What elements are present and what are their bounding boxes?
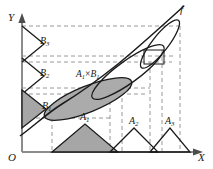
fuzzy-set-b3-label-sub: 3 bbox=[46, 40, 49, 47]
fuzzy-set-b2-label: B2 bbox=[40, 68, 50, 78]
patch-label-left: A bbox=[76, 69, 82, 79]
patch-label-left-sub: 1 bbox=[82, 73, 85, 80]
fuzzy-patch-a1b1-label: A1×B1 bbox=[76, 70, 99, 80]
fuzzy-set-a3-label-sub: 3 bbox=[171, 120, 174, 127]
y-axis-label: Y bbox=[8, 12, 14, 23]
fuzzy-set-a1-shape bbox=[52, 124, 118, 152]
fuzzy-set-a3-shape bbox=[150, 128, 190, 152]
fuzzy-set-b3-label: B3 bbox=[40, 36, 50, 46]
patch-label-right-sub: 1 bbox=[96, 73, 99, 80]
fuzzy-set-a3-label: A3 bbox=[165, 116, 175, 126]
fuzzy-set-a2-shape bbox=[110, 128, 158, 152]
fuzzy-set-b1-label: B1 bbox=[42, 101, 52, 111]
curve-f-label: f bbox=[180, 4, 183, 15]
fuzzy-set-a2-label: A2 bbox=[129, 116, 139, 126]
fuzzy-set-a2-label-sub: 2 bbox=[135, 120, 138, 127]
fuzzy-set-a1-label-sub: 1 bbox=[86, 116, 89, 123]
figure-canvas bbox=[0, 0, 213, 169]
fuzzy-set-b1-label-sub: 1 bbox=[48, 105, 51, 112]
fuzzy-set-b2-label-sub: 2 bbox=[46, 72, 49, 79]
x-axis-label: X bbox=[198, 152, 205, 163]
fuzzy-relation-figure: Y X O f B3 B2 B1 A1×B1 A1 A2 A3 bbox=[0, 0, 213, 169]
y-axis-arrow-icon bbox=[18, 13, 25, 23]
fuzzy-set-a1-label: A1 bbox=[80, 112, 90, 122]
origin-label: O bbox=[8, 152, 16, 163]
